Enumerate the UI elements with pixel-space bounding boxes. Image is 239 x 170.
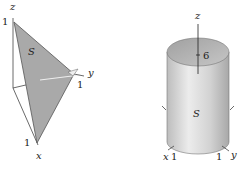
triangle-figure: z 1 S y 1 1 x <box>2 1 94 161</box>
left-tick <box>162 106 166 110</box>
z-axis-label: z <box>9 1 16 12</box>
y-intercept-label: 1 <box>216 151 222 162</box>
x-intercept-label: 1 <box>171 151 177 162</box>
y-axis-label: y <box>87 67 94 78</box>
y-intercept-label: 1 <box>77 79 83 90</box>
surface-label: S <box>28 46 35 57</box>
right-tick <box>230 106 234 110</box>
x-intercept-label: 1 <box>24 137 30 148</box>
x-axis-label: x <box>36 150 42 161</box>
triangle-surface <box>14 22 74 143</box>
y-axis-label: y <box>230 149 237 160</box>
height-label: 6 <box>203 50 209 61</box>
surface-label: S <box>193 108 200 119</box>
cylinder-figure: z 6 S x 1 1 y <box>162 10 237 162</box>
figure-canvas: z 1 S y 1 1 x z 6 S x 1 1 y <box>0 0 239 170</box>
z-intercept-label: 1 <box>2 16 8 27</box>
z-axis-label: z <box>194 10 201 21</box>
x-axis-label: x <box>163 151 169 162</box>
